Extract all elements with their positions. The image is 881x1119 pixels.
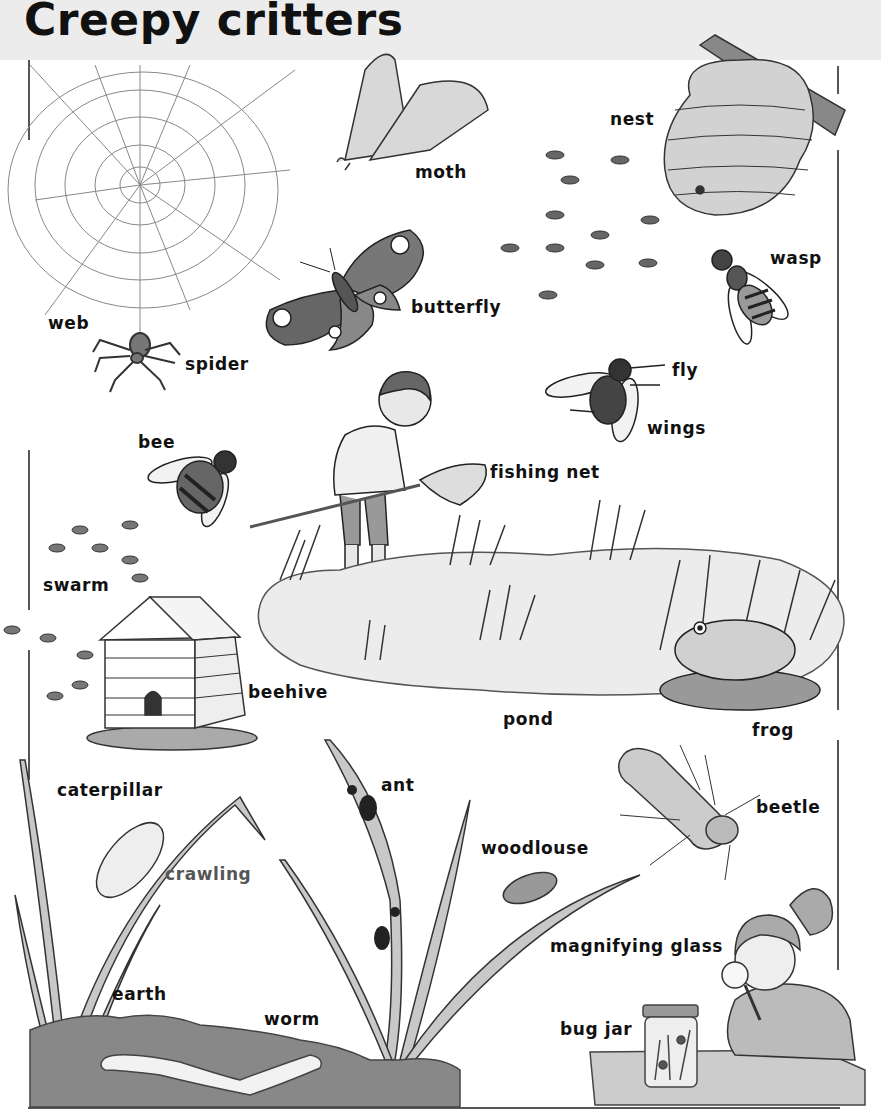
label-nest: nest bbox=[610, 109, 654, 129]
spider-illustration bbox=[93, 333, 180, 392]
grass-middle-illustration bbox=[280, 740, 640, 1060]
label-bug-jar: bug jar bbox=[560, 1019, 632, 1039]
beehive-illustration bbox=[87, 597, 257, 750]
label-spider: spider bbox=[185, 354, 249, 374]
bug-jar-illustration bbox=[643, 1005, 698, 1087]
label-earth: earth bbox=[112, 984, 167, 1004]
butterfly-illustration bbox=[266, 230, 423, 350]
label-beehive: beehive bbox=[248, 682, 328, 702]
wasp-swarm-illustration bbox=[501, 151, 659, 299]
label-magnifying-glass: magnifying glass bbox=[550, 936, 723, 956]
label-caterpillar: caterpillar bbox=[57, 780, 163, 800]
label-moth: moth bbox=[415, 162, 467, 182]
label-butterfly: butterfly bbox=[411, 297, 501, 317]
label-fishing-net: fishing net bbox=[490, 462, 600, 482]
label-wasp: wasp bbox=[770, 248, 822, 268]
label-worm: worm bbox=[264, 1009, 320, 1029]
label-woodlouse: woodlouse bbox=[481, 838, 589, 858]
label-crawling: crawling bbox=[165, 864, 251, 884]
label-ant: ant bbox=[381, 775, 415, 795]
spider-web-illustration bbox=[8, 65, 295, 335]
label-pond: pond bbox=[503, 709, 554, 729]
label-swarm: swarm bbox=[43, 575, 109, 595]
label-beetle: beetle bbox=[756, 797, 820, 817]
caterpillar-illustration bbox=[84, 811, 176, 908]
label-frog: frog bbox=[752, 720, 794, 740]
moth-illustration bbox=[337, 54, 488, 170]
wasp-nest-illustration bbox=[664, 35, 845, 215]
woodlouse-illustration bbox=[499, 866, 561, 910]
beetle-illustration bbox=[619, 745, 760, 880]
girl-illustration bbox=[722, 889, 855, 1060]
label-web: web bbox=[48, 313, 89, 333]
bee-illustration bbox=[146, 451, 236, 530]
label-wings: wings bbox=[647, 418, 706, 438]
label-bee: bee bbox=[138, 432, 175, 452]
label-fly: fly bbox=[672, 360, 698, 380]
